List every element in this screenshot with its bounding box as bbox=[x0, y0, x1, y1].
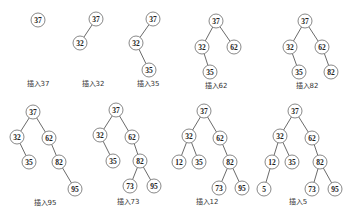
tree-caption: 插入82 bbox=[296, 81, 319, 90]
node-label: 37 bbox=[200, 107, 208, 116]
node-label: 37 bbox=[212, 17, 220, 26]
edge-37-62 bbox=[120, 116, 129, 131]
tree-node: 35 bbox=[142, 63, 156, 77]
node-label: 73 bbox=[215, 184, 223, 193]
edge-32-35 bbox=[292, 54, 296, 66]
edge-37-32 bbox=[84, 25, 92, 37]
tree-node: 37 bbox=[109, 103, 123, 117]
node-label: 37 bbox=[29, 108, 37, 117]
edge-82-95 bbox=[233, 168, 239, 181]
tree-node: 32 bbox=[10, 130, 24, 144]
edge-37-62 bbox=[309, 27, 318, 41]
node-label: 35 bbox=[288, 158, 296, 167]
tree-caption: 插入62 bbox=[205, 81, 228, 90]
node-label: 32 bbox=[76, 39, 84, 48]
node-label: 35 bbox=[145, 66, 153, 75]
tree-node: 37 bbox=[31, 13, 45, 27]
node-label: 82 bbox=[55, 158, 63, 167]
node-label: 37 bbox=[92, 15, 100, 24]
tree-caption: 插入35 bbox=[137, 79, 160, 88]
tree-2-edges bbox=[84, 25, 92, 37]
edge-32-35 bbox=[103, 141, 110, 154]
tree-node: 82 bbox=[133, 154, 147, 168]
edge-82-73 bbox=[133, 168, 138, 180]
tree-8-edges bbox=[182, 117, 240, 182]
tree-node: 37 bbox=[146, 12, 160, 26]
node-label: 35 bbox=[195, 158, 203, 167]
tree-caption: 插入37 bbox=[27, 79, 50, 88]
tree-node: 37 bbox=[89, 12, 103, 26]
edge-32-35 bbox=[192, 143, 197, 156]
node-label: 82 bbox=[316, 158, 324, 167]
tree-5-nodes: 3732623582 bbox=[283, 14, 338, 79]
tree-node: 62 bbox=[125, 130, 139, 144]
tree-4-nodes: 37326235 bbox=[195, 14, 241, 79]
tree-node: 32 bbox=[182, 129, 196, 143]
tree-node: 37 bbox=[288, 104, 302, 118]
tree-node: 35 bbox=[285, 155, 299, 169]
tree-node: 62 bbox=[213, 131, 227, 145]
tree-node: 5 bbox=[257, 182, 271, 196]
node-label: 62 bbox=[45, 134, 53, 143]
tree-node: 35 bbox=[203, 65, 217, 79]
tree-caption: 插入95 bbox=[34, 198, 57, 207]
node-label: 95 bbox=[331, 185, 339, 194]
tree-node: 82 bbox=[52, 155, 66, 169]
tree-node: 12 bbox=[172, 155, 186, 169]
node-label: 62 bbox=[128, 133, 136, 142]
edge-37-32 bbox=[205, 27, 212, 41]
edge-32-35 bbox=[204, 54, 208, 66]
tree-3-nodes: 373235 bbox=[129, 12, 160, 77]
node-label: 62 bbox=[230, 43, 238, 52]
edge-37-32 bbox=[104, 116, 112, 129]
edge-62-82 bbox=[314, 145, 318, 156]
tree-node: 35 bbox=[22, 155, 36, 169]
node-label: 32 bbox=[286, 43, 294, 52]
tree-node: 95 bbox=[147, 179, 161, 193]
tree-node: 32 bbox=[73, 36, 87, 50]
node-label: 95 bbox=[71, 185, 79, 194]
node-label: 32 bbox=[132, 39, 140, 48]
tree-node: 32 bbox=[195, 40, 209, 54]
tree-node: 95 bbox=[328, 182, 342, 196]
node-label: 32 bbox=[96, 131, 104, 140]
tree-node: 73 bbox=[305, 182, 319, 196]
edge-37-62 bbox=[299, 117, 309, 132]
tree-9-edges bbox=[266, 117, 332, 183]
tree-node: 35 bbox=[106, 154, 120, 168]
edge-32-12 bbox=[182, 143, 187, 156]
node-label: 37 bbox=[149, 15, 157, 24]
node-label: 82 bbox=[327, 68, 335, 77]
edge-32-35 bbox=[283, 142, 289, 155]
edge-37-32 bbox=[140, 25, 149, 38]
tree-1-nodes: 37 bbox=[31, 13, 45, 27]
node-label: 35 bbox=[295, 68, 303, 77]
edge-62-82 bbox=[52, 144, 57, 155]
node-label: 95 bbox=[150, 182, 158, 191]
tree-node: 82 bbox=[324, 65, 338, 79]
node-label: 37 bbox=[301, 17, 309, 26]
tree-node: 73 bbox=[212, 181, 226, 195]
edge-82-73 bbox=[222, 168, 228, 181]
tree-node: 32 bbox=[273, 129, 287, 143]
edge-37-62 bbox=[220, 27, 230, 41]
edge-37-62 bbox=[37, 118, 46, 132]
edge-32-35 bbox=[20, 143, 26, 155]
edge-37-62 bbox=[208, 117, 217, 132]
node-label: 62 bbox=[216, 134, 224, 143]
tree-node: 82 bbox=[223, 155, 237, 169]
edge-82-95 bbox=[63, 168, 72, 183]
tree-node: 35 bbox=[192, 155, 206, 169]
edge-62-82 bbox=[134, 144, 138, 155]
node-label: 95 bbox=[238, 184, 246, 193]
tree-node: 37 bbox=[26, 105, 40, 119]
tree-7-edges bbox=[103, 116, 150, 180]
tree-node: 95 bbox=[68, 182, 82, 196]
tree-node: 12 bbox=[265, 155, 279, 169]
node-label: 73 bbox=[126, 182, 134, 191]
tree-node: 37 bbox=[298, 14, 312, 28]
tree-node: 32 bbox=[93, 128, 107, 142]
tree-node: 35 bbox=[292, 65, 306, 79]
node-label: 82 bbox=[226, 158, 234, 167]
node-label: 32 bbox=[276, 132, 284, 141]
